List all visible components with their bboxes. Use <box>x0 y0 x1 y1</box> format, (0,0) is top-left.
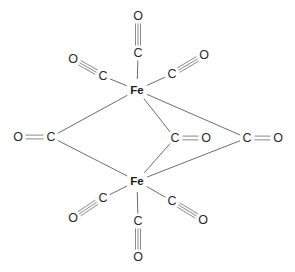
atom-label-c-lower-left: C <box>98 191 107 205</box>
atom-label-o-bridge-left: O <box>13 130 23 144</box>
bond-b-clr-olr-mid <box>178 205 196 216</box>
atom-label-c-top: C <box>133 46 142 60</box>
atom-label-fe-top: Fe <box>130 84 143 96</box>
atom-layer: FeFeCOCOCOCOCOCOCOCOCO <box>12 9 285 264</box>
bond-b-fetop-cbl <box>58 95 128 133</box>
atom-label-c-bottom: C <box>133 214 142 228</box>
bond-b-clr-olr-a <box>177 207 195 218</box>
bond-b-fetop-cul <box>110 79 127 86</box>
atom-label-c-lower-right: C <box>167 194 176 208</box>
bond-b-cll-oll-mid <box>79 202 97 214</box>
bond-b-fetop-cur <box>147 77 165 85</box>
bond-b-fetop-cbr <box>147 94 240 135</box>
atom-label-c-bridge-left: C <box>46 130 55 144</box>
bond-b-febot-cbl <box>58 140 128 176</box>
atom-label-o-bottom: O <box>133 250 143 264</box>
atom-label-fe-bottom: Fe <box>130 175 143 187</box>
atom-label-o-bridge-right: O <box>273 131 283 145</box>
bond-b-febot-clr <box>147 186 166 197</box>
bond-b-fetop-cbm <box>144 99 171 132</box>
bond-b-cll-oll-b <box>81 204 99 216</box>
atom-label-c-bridge-right: C <box>242 131 251 145</box>
atom-label-o-lower-left: O <box>68 211 78 225</box>
atom-label-c-upper-left: C <box>98 69 107 83</box>
atom-label-o-upper-right: O <box>199 48 209 62</box>
molecular-structure-diagram: FeFeCOCOCOCOCOCOCOCOCO <box>0 0 295 272</box>
bond-layer <box>26 24 271 250</box>
atom-label-c-bridge-mid: C <box>170 131 179 145</box>
bond-b-febot-cll <box>110 186 127 195</box>
atom-label-o-top: O <box>133 9 143 23</box>
bond-b-cur-our-a <box>180 61 199 72</box>
atom-label-o-bridge-mid: O <box>201 131 211 145</box>
bond-b-clr-olr-b <box>180 203 198 214</box>
structure-canvas: FeFeCOCOCOCOCOCOCOCOCO <box>0 0 295 272</box>
bond-b-febot-cbottom <box>137 192 138 214</box>
bond-b-febot-cbm <box>144 144 170 173</box>
bond-b-cur-our-mid <box>178 59 197 70</box>
atom-label-c-upper-right: C <box>167 67 176 81</box>
atom-label-o-upper-left: O <box>68 52 78 66</box>
atom-label-o-lower-right: O <box>198 213 208 227</box>
bond-b-fetop-ctop <box>137 61 138 80</box>
bond-b-cll-oll-a <box>78 200 96 212</box>
bond-b-cur-our-b <box>177 57 196 68</box>
bond-b-febot-cbr <box>147 141 240 177</box>
